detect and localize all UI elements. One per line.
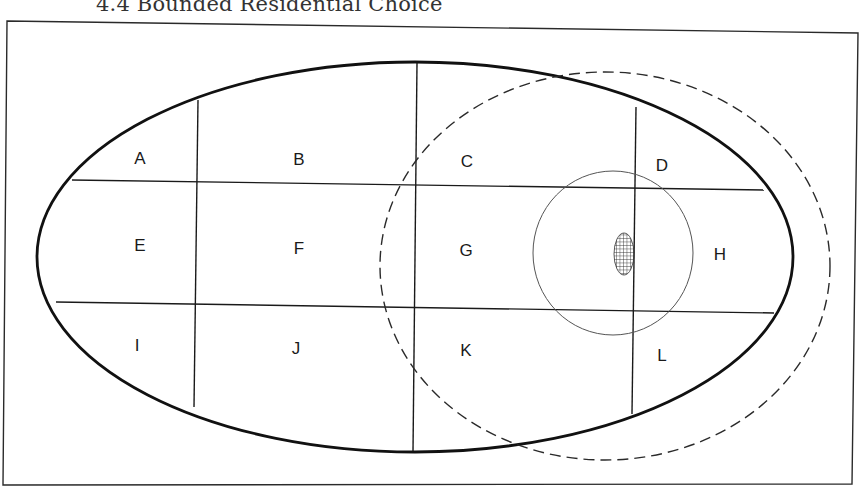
vertical-line-left	[194, 100, 198, 407]
residential-choice-diagram: ABCDEFGHIJKL	[0, 0, 859, 486]
diagram-stage: 4.4 Bounded Residential Choice ABCDEFGHI…	[0, 0, 859, 486]
horizontal-line-upper	[72, 180, 764, 190]
figure-frame	[3, 21, 858, 485]
zone-label-i: I	[135, 336, 140, 355]
zone-label-f: F	[294, 239, 304, 258]
current-residence-hatched-area	[614, 233, 634, 275]
zone-label-l: L	[657, 346, 666, 365]
zone-label-k: K	[460, 341, 472, 360]
zone-labels: ABCDEFGHIJKL	[134, 149, 726, 365]
zone-label-c: C	[461, 152, 473, 171]
search-space-dashed-boundary	[380, 72, 830, 460]
zone-grid-lines	[56, 63, 774, 451]
zone-label-g: G	[459, 241, 472, 260]
zone-label-h: H	[714, 245, 726, 264]
zone-label-e: E	[134, 236, 145, 255]
zone-label-a: A	[134, 149, 146, 168]
zone-label-b: B	[293, 150, 304, 169]
zone-label-d: D	[656, 156, 668, 175]
figure-title: 4.4 Bounded Residential Choice	[96, 0, 443, 16]
vertical-line-center	[413, 63, 417, 451]
zone-label-j: J	[292, 339, 301, 358]
